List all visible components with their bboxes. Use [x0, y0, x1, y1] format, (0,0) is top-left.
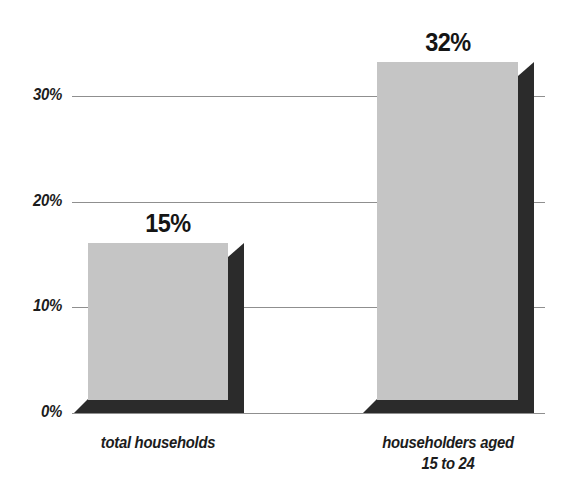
bar-householders-15-24: [0, 0, 573, 497]
bar-chart: 30% 20% 10% 0% 15% 32% total households …: [0, 0, 573, 497]
category-label-line1: householders aged: [382, 433, 514, 451]
value-label-total-households: 15%: [121, 209, 215, 238]
category-label-householders-15-24: householders aged 15 to 24: [358, 432, 538, 474]
bar-side-shadow: [518, 62, 534, 413]
bar-front-face: [377, 62, 518, 400]
bar-bottom-shadow: [363, 399, 534, 413]
category-label-line2: 15 to 24: [358, 453, 538, 474]
value-label-householders-15-24: 32%: [401, 28, 495, 57]
category-label-line1: total households: [101, 433, 215, 451]
category-label-total-households: total households: [68, 432, 248, 453]
